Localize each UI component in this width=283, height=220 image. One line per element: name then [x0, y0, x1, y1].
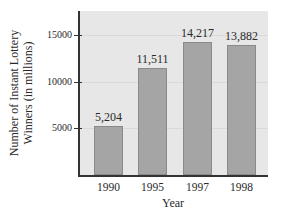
- x-tick-label: 1995: [133, 181, 173, 193]
- bar-1990: [94, 126, 123, 175]
- x-tick-label: 1990: [89, 181, 129, 193]
- bar-chart: 50001000015000 5,20411,51114,21713,882 1…: [0, 0, 283, 220]
- x-tick-label: 1998: [222, 181, 262, 193]
- bar-value-label: 14,217: [173, 27, 223, 39]
- bar-value-label: 13,882: [217, 30, 267, 42]
- x-axis-title: Year: [148, 197, 198, 209]
- y-tick: [74, 35, 82, 36]
- y-tick: [74, 128, 82, 129]
- x-axis: [78, 175, 268, 177]
- y-axis-title: Number of Instant Lottery Winners (in mi…: [7, 13, 35, 173]
- y-tick-label: 5000: [36, 123, 72, 133]
- bar-1998: [227, 45, 256, 175]
- bar-value-label: 11,511: [128, 53, 178, 65]
- y-axis-title-line-2: Winners (in millions): [21, 13, 35, 173]
- bar-1997: [183, 42, 212, 175]
- y-tick-label: 10000: [36, 77, 72, 87]
- bar-value-label: 5,204: [84, 111, 134, 123]
- bar-1995: [138, 68, 167, 175]
- x-tick-label: 1997: [178, 181, 218, 193]
- y-axis-title-line-1: Number of Instant Lottery: [7, 13, 21, 173]
- y-tick-label: 15000: [36, 30, 72, 40]
- y-tick: [74, 82, 82, 83]
